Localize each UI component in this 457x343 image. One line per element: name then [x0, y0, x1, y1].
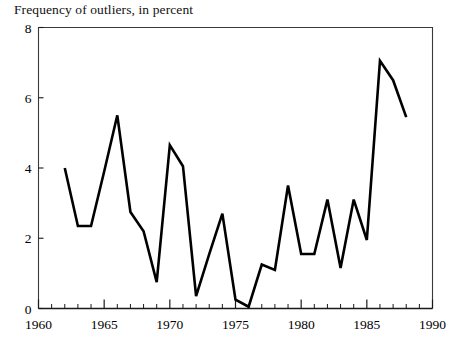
x-tick-label: 1960 — [25, 317, 52, 332]
x-tick-label: 1970 — [156, 317, 183, 332]
y-axis-tick-labels: 02468 — [25, 21, 32, 317]
x-tick-label: 1985 — [353, 317, 380, 332]
x-tick-label: 1990 — [419, 317, 446, 332]
y-tick-label: 4 — [25, 161, 32, 176]
y-axis-ticks — [39, 28, 44, 309]
y-tick-label: 8 — [25, 21, 32, 36]
outlier-frequency-line-chart: 02468 1960196519701975198019851990 — [0, 0, 457, 343]
y-tick-label: 2 — [25, 231, 32, 246]
x-axis-tick-labels: 1960196519701975198019851990 — [25, 317, 446, 332]
x-tick-label: 1980 — [288, 317, 315, 332]
y-tick-label: 0 — [25, 302, 32, 317]
data-series-line — [65, 61, 406, 307]
y-tick-label: 6 — [25, 91, 32, 106]
x-tick-label: 1965 — [91, 317, 118, 332]
x-tick-label: 1975 — [222, 317, 249, 332]
chart-figure: Frequency of outliers, in percent 02468 … — [0, 0, 457, 343]
series-path — [65, 61, 406, 307]
